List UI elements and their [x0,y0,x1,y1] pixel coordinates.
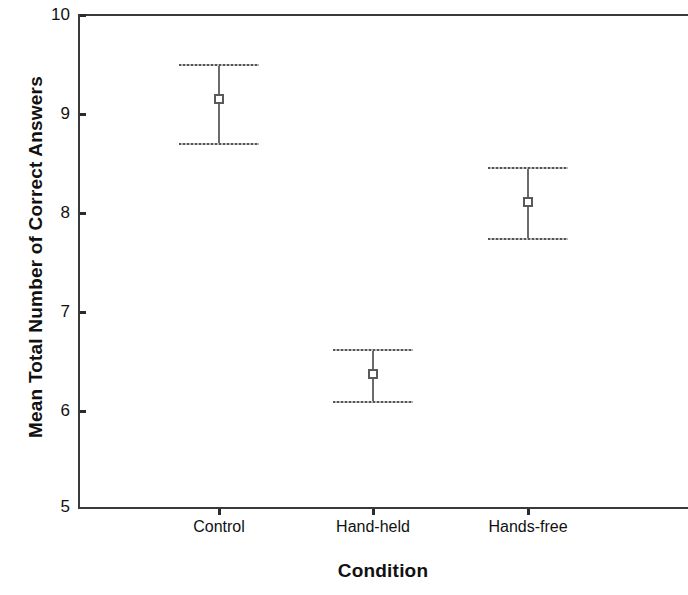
x-axis-title: Condition [78,560,688,582]
x-tick-label-hands-free: Hands-free [448,518,608,536]
y-tick-label-6: 6 [26,402,70,419]
errorbar-cap-lower-control [179,143,259,145]
errorbar-chart-figure: Mean Total Number of Correct Answers 10 … [0,0,688,595]
y-tick-label-5: 5 [26,498,70,515]
y-tick-label-10: 10 [26,6,70,23]
data-marker-hand-held [368,369,378,379]
y-tick-label-8: 8 [26,204,70,221]
x-tick-mark-hand-held [372,509,375,515]
y-tick-mark-7 [80,311,86,314]
x-tick-label-hand-held: Hand-held [293,518,453,536]
data-marker-hands-free [523,197,533,207]
x-axis-line [78,507,688,509]
x-tick-label-control: Control [139,518,299,536]
x-tick-mark-hands-free [527,509,530,515]
data-marker-control [214,94,224,104]
y-tick-label-9: 9 [26,105,70,122]
y-tick-mark-10 [80,14,86,17]
y-tick-label-7: 7 [26,303,70,320]
errorbar-cap-lower-hand-held [333,401,413,403]
x-tick-mark-control [218,509,221,515]
y-axis-line [78,14,80,509]
y-axis-title: Mean Total Number of Correct Answers [25,7,47,507]
errorbar-cap-upper-hands-free [488,167,568,169]
y-tick-mark-6 [80,410,86,413]
y-tick-mark-9 [80,113,86,116]
plot-area: 10 9 8 7 6 5 Control Hand-held Hands-fre… [78,14,688,509]
errorbar-cap-lower-hands-free [488,238,568,240]
errorbar-cap-upper-control [179,64,259,66]
errorbar-stem-control [218,64,220,144]
errorbar-cap-upper-hand-held [333,349,413,351]
y-tick-mark-8 [80,212,86,215]
plot-top-border [78,14,688,16]
